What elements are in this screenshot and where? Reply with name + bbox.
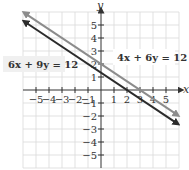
y-tick-label: 1	[91, 72, 97, 83]
y-tick-label: −3	[82, 124, 97, 135]
eq-label-4x-6y-12: 4x + 6y = 12	[117, 52, 187, 63]
x-tick-label: 2	[124, 94, 130, 105]
y-tick-label: 4	[91, 33, 97, 44]
y-tick-label: −1	[82, 98, 97, 109]
x-tick-label: 5	[163, 94, 169, 105]
y-tick-label: −4	[82, 137, 97, 148]
coordinate-plane: −5 −4 −3 −2 −1 1 2 3 4 5 5 4 3 2 1 −1 −2…	[0, 0, 189, 170]
y-tick-label: 3	[91, 46, 97, 57]
y-tick-label: −5	[82, 150, 97, 161]
y-axis-label: y	[96, 0, 104, 12]
x-axis-label: x	[183, 83, 189, 96]
y-tick-label: −2	[82, 111, 97, 122]
y-tick-label: 5	[91, 20, 97, 31]
eq-label-6x-9y-12: 6x + 9y = 12	[8, 59, 78, 70]
x-tick-label: 1	[111, 94, 117, 105]
